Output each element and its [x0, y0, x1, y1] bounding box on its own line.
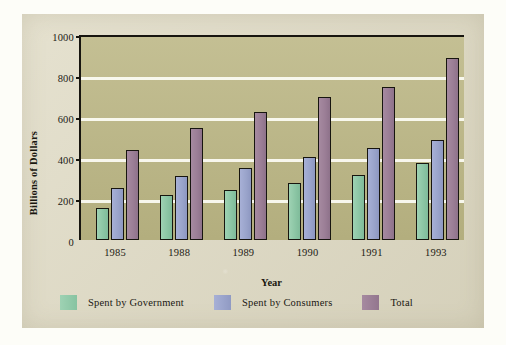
y-tick-label: 1000: [52, 32, 74, 43]
legend-item: Total: [362, 295, 412, 310]
legend-label: Total: [390, 297, 412, 308]
y-tick-label: 400: [58, 155, 74, 166]
x-tick-label: 1985: [85, 247, 145, 258]
y-tick-mark: [76, 118, 81, 120]
y-tick-label: 200: [58, 196, 74, 207]
bar: [126, 150, 139, 240]
bar-group: [96, 37, 139, 240]
bar: [224, 190, 237, 240]
x-tick-label: 1991: [342, 247, 402, 258]
legend-swatch: [362, 295, 379, 310]
bar: [446, 58, 459, 240]
x-tick-label: 1993: [406, 247, 466, 258]
chart-figure: Billions of Dollars Year 020040060080010…: [0, 0, 506, 345]
bar: [318, 97, 331, 241]
bar-group: [224, 37, 267, 240]
legend-label: Spent by Government: [88, 297, 184, 308]
legend-item: Spent by Consumers: [214, 295, 333, 310]
bar: [175, 176, 188, 240]
y-tick-mark: [76, 36, 81, 38]
x-axis-label: Year: [79, 277, 464, 288]
bar-group: [352, 37, 395, 240]
bar: [239, 168, 252, 240]
x-tick-label: 1990: [278, 247, 338, 258]
bar-group: [288, 37, 331, 240]
bar-group: [416, 37, 459, 240]
legend-label: Spent by Consumers: [242, 297, 333, 308]
x-tick-label: 1989: [213, 247, 273, 258]
y-tick-label: 0: [69, 237, 74, 248]
bar: [160, 195, 173, 240]
bar: [352, 175, 365, 240]
y-tick-mark: [76, 77, 81, 79]
y-tick-mark: [76, 159, 81, 161]
bar: [431, 140, 444, 240]
bar: [111, 188, 124, 240]
bar-group: [160, 37, 203, 240]
bar: [190, 128, 203, 240]
plot-area: 02004006008001000: [79, 35, 464, 240]
y-tick-mark: [76, 200, 81, 202]
bar: [303, 157, 316, 240]
bar: [288, 183, 301, 240]
y-tick-label: 600: [58, 114, 74, 125]
x-tick-label: 1988: [149, 247, 209, 258]
bar: [96, 208, 109, 240]
legend-swatch: [60, 295, 77, 310]
legend-swatch: [214, 295, 231, 310]
bar: [416, 163, 429, 240]
legend-item: Spent by Government: [60, 295, 184, 310]
bar: [382, 87, 395, 240]
bar: [254, 112, 267, 240]
bar: [367, 148, 380, 240]
chart-legend: Spent by GovernmentSpent by ConsumersTot…: [60, 295, 450, 310]
y-axis-label: Billions of Dollars: [28, 130, 39, 214]
y-tick-label: 800: [58, 73, 74, 84]
